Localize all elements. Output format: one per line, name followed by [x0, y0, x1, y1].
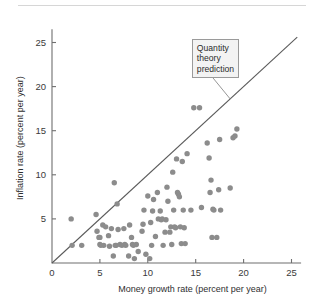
x-tick-label: 5	[97, 267, 102, 278]
y-tick-label: 15	[35, 125, 46, 136]
data-point	[197, 105, 202, 110]
data-point	[165, 199, 170, 204]
data-point	[143, 251, 148, 256]
data-point	[112, 180, 117, 185]
data-point	[123, 243, 128, 248]
quantity-theory-callout: Quantity theory prediction	[192, 39, 239, 78]
data-point	[209, 235, 214, 240]
data-point	[227, 185, 232, 190]
data-point	[170, 169, 175, 174]
data-point	[180, 159, 185, 164]
callout-line-1: Quantity	[197, 43, 234, 53]
data-point	[129, 235, 134, 240]
data-point	[153, 234, 158, 239]
axis-titles: Money growth rate (percent per year)Infl…	[15, 76, 267, 294]
scatter-plot: 0510152025510152025 Money growth rate (p…	[0, 0, 319, 303]
data-point	[160, 243, 165, 248]
data-point	[191, 105, 196, 110]
data-point	[140, 221, 145, 226]
figure-container: 0510152025510152025 Money growth rate (p…	[0, 0, 319, 303]
data-point	[139, 229, 144, 234]
data-point	[206, 155, 211, 160]
x-tick-label: 10	[143, 267, 154, 278]
data-point	[207, 190, 212, 195]
data-point	[97, 235, 102, 240]
data-point	[181, 207, 186, 212]
data-point	[214, 235, 219, 240]
callout-line-2: theory	[197, 53, 234, 63]
data-point	[127, 222, 132, 227]
y-tick-label: 5	[41, 213, 46, 224]
data-point	[101, 243, 106, 248]
data-point	[145, 193, 150, 198]
data-point	[109, 226, 114, 231]
data-point	[232, 133, 237, 138]
data-point	[217, 137, 222, 142]
data-points	[68, 105, 239, 261]
data-point	[149, 243, 154, 248]
data-point	[134, 242, 139, 247]
x-tick-label: 15	[190, 267, 201, 278]
data-point	[167, 229, 172, 234]
data-point	[148, 220, 153, 225]
x-tick-label: 0	[49, 267, 54, 278]
data-point	[184, 151, 189, 156]
data-point	[111, 253, 116, 258]
data-point	[141, 207, 146, 212]
data-point	[106, 233, 111, 238]
data-point	[155, 190, 160, 195]
data-point	[171, 207, 176, 212]
data-point	[164, 184, 169, 189]
data-point	[199, 205, 204, 210]
data-point	[151, 197, 156, 202]
data-point	[177, 194, 182, 199]
data-point	[205, 140, 210, 145]
data-point	[169, 242, 174, 247]
x-axis-title: Money growth rate (percent per year)	[118, 284, 267, 294]
data-point	[132, 256, 137, 261]
data-point	[69, 243, 74, 248]
data-point	[182, 225, 187, 230]
callout-line-3: prediction	[197, 64, 234, 74]
data-point	[79, 243, 84, 248]
data-point	[174, 156, 179, 161]
data-point	[150, 208, 155, 213]
data-point	[94, 229, 99, 234]
data-point	[173, 225, 178, 230]
data-point	[147, 256, 152, 261]
data-point	[163, 217, 168, 222]
data-point	[158, 208, 163, 213]
data-point	[136, 249, 141, 254]
data-point	[216, 187, 221, 192]
data-point	[188, 207, 193, 212]
data-point	[121, 226, 126, 231]
data-point	[211, 207, 216, 212]
data-point	[208, 177, 213, 182]
data-point	[126, 253, 131, 258]
data-point	[162, 229, 167, 234]
data-point	[234, 126, 239, 131]
y-axis-title: Inflation rate (percent per year)	[15, 76, 25, 200]
data-point	[93, 212, 98, 217]
x-tick-label: 25	[286, 267, 297, 278]
y-tick-label: 25	[35, 37, 46, 48]
y-tick-label: 20	[35, 81, 46, 92]
data-point	[115, 227, 120, 232]
data-point	[68, 216, 73, 221]
data-point	[182, 241, 187, 246]
y-tick-label: 10	[35, 169, 46, 180]
callout-leader-line	[213, 78, 230, 99]
x-tick-label: 20	[238, 267, 249, 278]
data-point	[218, 207, 223, 212]
data-point	[103, 224, 108, 229]
data-point	[114, 201, 119, 206]
data-point	[107, 244, 112, 249]
